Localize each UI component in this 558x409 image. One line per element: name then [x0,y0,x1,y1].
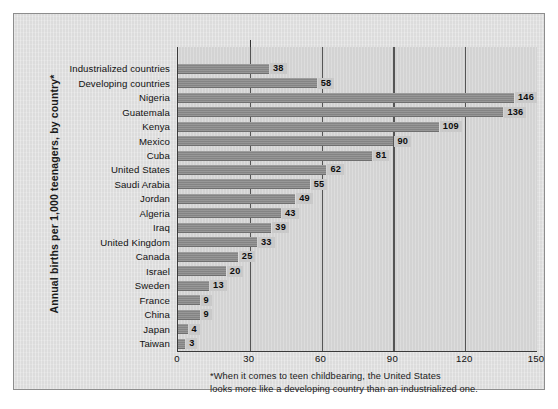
bar-row: 136 [178,105,537,119]
category-label: Israel [50,264,174,278]
category-label: Taiwan [50,336,174,350]
bar [178,78,317,88]
bar [178,107,503,117]
bar-row: 9 [178,293,537,307]
bar-value-label: 38 [270,63,287,74]
bar [178,281,209,291]
category-label: Kenya [50,119,174,133]
chart-figure: Annual births per 1,000 teenagers, by co… [0,0,558,409]
bar [178,237,257,247]
bar [178,64,269,74]
bar [178,165,326,175]
category-label: Developing countries [50,76,174,90]
bar-value-label: 4 [189,324,200,335]
x-tick-label: 30 [243,353,254,364]
bar-row: 90 [178,134,537,148]
bar [178,151,372,161]
bar-row: 55 [178,177,537,191]
chart-panel: Annual births per 1,000 teenagers, by co… [13,13,545,390]
bar-value-label: 39 [272,222,289,233]
bar-value-label: 49 [296,193,313,204]
x-tick-label: 0 [174,353,180,364]
x-tick-label: 90 [387,353,398,364]
bar-value-label: 20 [227,266,244,277]
category-label: France [50,293,174,307]
bar-row: 43 [178,206,537,220]
bar-value-label: 136 [504,107,526,118]
bar-row: 13 [178,279,537,293]
bar-value-label: 13 [210,280,227,291]
bar [178,252,238,262]
category-axis-labels: Industrialized countriesDeveloping count… [50,47,174,351]
bar-row: 33 [178,235,537,249]
footnote-line-1: *When it comes to teen childbearing, the… [210,370,540,383]
bar [178,208,281,218]
bar-row: 20 [178,264,537,278]
category-label: Nigeria [50,90,174,104]
bar [178,339,185,349]
bar-row: 9 [178,307,537,321]
x-tick-label: 150 [528,353,545,364]
x-axis-tick-labels: 0306090120150 [177,353,536,367]
category-label: Guatemala [50,105,174,119]
category-label: China [50,307,174,321]
bar-value-label: 9 [201,295,212,306]
category-label: Algeria [50,206,174,220]
category-label: Sweden [50,279,174,293]
bar-row: 3 [178,336,537,350]
bar-row: 4 [178,322,537,336]
category-label: Iraq [50,221,174,235]
bar [178,310,200,320]
bar-value-label: 146 [515,92,537,103]
bar-row: 62 [178,163,537,177]
category-label: Cuba [50,148,174,162]
bar [178,122,439,132]
bar-value-label: 3 [186,338,197,349]
bar-row: 39 [178,221,537,235]
bar-row: 109 [178,119,537,133]
bar-value-label: 81 [373,150,390,161]
bar-row: 25 [178,250,537,264]
category-label: Jordan [50,192,174,206]
category-label: Mexico [50,134,174,148]
bar [178,136,393,146]
bar [178,194,295,204]
category-label: Canada [50,250,174,264]
bar [178,295,200,305]
top-tick-mark [250,40,251,47]
bar [178,223,271,233]
bar-value-label: 55 [311,179,328,190]
category-label: United Kingdom [50,235,174,249]
category-label: Industrialized countries [50,61,174,75]
bar [178,93,514,103]
plot-area: 385814613610990816255494339332520139943 [177,47,537,352]
bar-row: 58 [178,76,537,90]
bar-value-label: 90 [394,136,411,147]
bar-row: 38 [178,61,537,75]
bar-value-label: 25 [239,251,256,262]
bar-series: 385814613610990816255494339332520139943 [178,47,537,351]
bar-value-label: 43 [282,208,299,219]
footnote-line-2: looks more like a developing country tha… [210,383,540,396]
bar-value-label: 109 [440,121,462,132]
category-label: Japan [50,322,174,336]
bar-row-spacer [178,47,537,61]
x-tick-label: 120 [456,353,473,364]
bar-row: 81 [178,148,537,162]
bar-row: 49 [178,192,537,206]
bar [178,266,226,276]
category-label: Saudi Arabia [50,177,174,191]
bar [178,179,310,189]
bar-value-label: 62 [327,164,344,175]
category-label-spacer [50,47,174,61]
bar-value-label: 33 [258,237,275,248]
bar [178,324,188,334]
x-tick-label: 60 [315,353,326,364]
bar-value-label: 58 [318,78,335,89]
footnote: *When it comes to teen childbearing, the… [210,370,540,395]
category-label: United States [50,163,174,177]
bar-row: 146 [178,90,537,104]
bar-value-label: 9 [201,309,212,320]
